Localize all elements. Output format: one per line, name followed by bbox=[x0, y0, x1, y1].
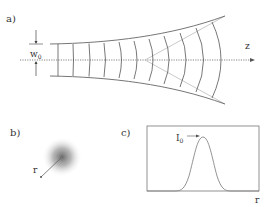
gaussian-beam-figure: a) z w0 bbox=[0, 0, 273, 207]
panel-a-label: a) bbox=[6, 13, 16, 24]
radius-label: r bbox=[33, 165, 38, 175]
panel-c: c) I0 r bbox=[121, 126, 260, 205]
gaussian-spot bbox=[42, 137, 82, 177]
asymptote-upper bbox=[145, 16, 225, 60]
peak-arrow-icon bbox=[196, 135, 200, 138]
panel-b-label: b) bbox=[10, 127, 20, 138]
peak-label: I0 bbox=[176, 133, 184, 144]
axis-arrow-icon bbox=[250, 58, 255, 62]
r-axis-label: r bbox=[255, 195, 260, 205]
waist-label: w0 bbox=[30, 49, 42, 60]
z-axis-label: z bbox=[245, 41, 250, 51]
panel-b: b) r bbox=[10, 127, 82, 178]
asymptote-lower bbox=[145, 60, 225, 104]
panel-c-label: c) bbox=[121, 127, 131, 138]
waist-marker: w0 bbox=[29, 30, 43, 76]
panel-a: a) z w0 bbox=[6, 13, 255, 104]
gaussian-curve bbox=[147, 137, 259, 191]
plot-frame bbox=[147, 126, 259, 191]
